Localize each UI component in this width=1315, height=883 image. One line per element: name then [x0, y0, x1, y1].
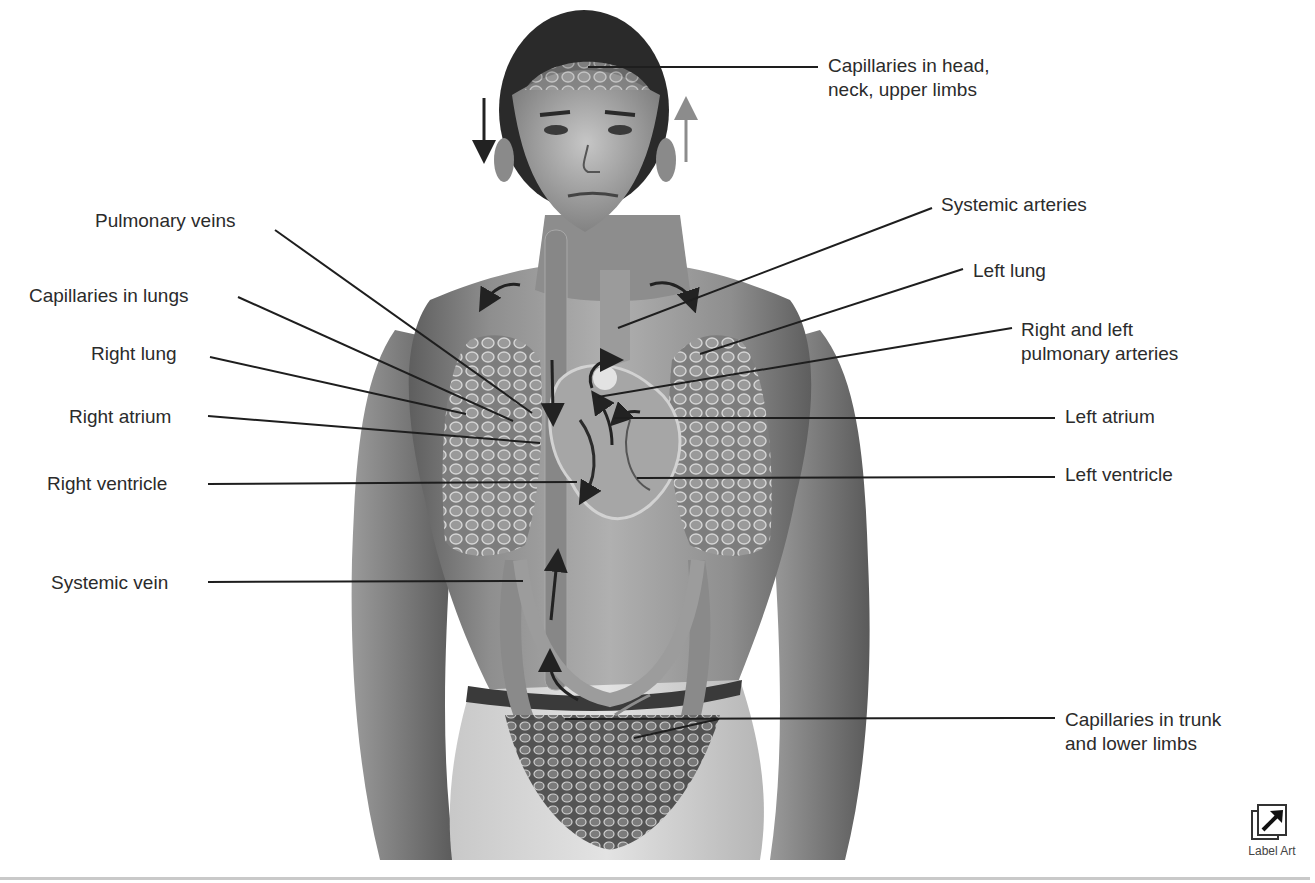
label-right-ventricle: Right ventricle: [47, 472, 167, 496]
label-pulmonary-arteries-line2: pulmonary arteries: [1021, 342, 1178, 366]
label-systemic-vein: Systemic vein: [51, 571, 168, 595]
label-left-lung: Left lung: [973, 259, 1046, 283]
label-capillaries-in-trunk: Capillaries in trunk and lower limbs: [1065, 708, 1221, 756]
arrow-up-right-in-box-icon: [1238, 802, 1306, 844]
circulatory-diagram: Pulmonary veins Capillaries in lungs Rig…: [0, 0, 1315, 883]
label-capillaries-in-head-line1: Capillaries in head,: [828, 54, 990, 78]
label-capillaries-in-head: Capillaries in head, neck, upper limbs: [828, 54, 990, 102]
label-pulmonary-arteries: Right and left pulmonary arteries: [1021, 318, 1178, 366]
label-right-lung: Right lung: [91, 342, 177, 366]
label-capillaries-in-trunk-line1: Capillaries in trunk: [1065, 708, 1221, 732]
label-systemic-arteries: Systemic arteries: [941, 193, 1087, 217]
label-art-text: Label Art: [1238, 844, 1306, 858]
label-capillaries-in-head-line2: neck, upper limbs: [828, 78, 990, 102]
label-capillaries-in-trunk-line2: and lower limbs: [1065, 732, 1221, 756]
label-pulmonary-veins: Pulmonary veins: [95, 209, 235, 233]
label-left-ventricle: Left ventricle: [1065, 463, 1173, 487]
label-right-atrium: Right atrium: [69, 405, 171, 429]
label-left-atrium: Left atrium: [1065, 405, 1155, 429]
label-capillaries-in-lungs: Capillaries in lungs: [29, 284, 188, 308]
bottom-divider: [0, 877, 1310, 880]
label-art-button[interactable]: Label Art: [1238, 802, 1306, 864]
label-pulmonary-arteries-line1: Right and left: [1021, 318, 1178, 342]
